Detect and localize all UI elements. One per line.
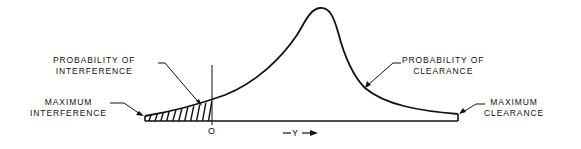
label-line: INTERFERENCE (53, 66, 135, 77)
label-probability-of-clearance: PROBABILITY OF CLEARANCE (402, 55, 484, 77)
label-line: CLEARANCE (402, 66, 484, 77)
leader-maximum-clearance (463, 104, 485, 112)
label-probability-of-interference: PROBABILITY OF INTERFERENCE (53, 55, 135, 77)
label-line: PROBABILITY OF (53, 55, 135, 66)
arrowhead-icon (459, 108, 466, 114)
origin-label: O (208, 126, 216, 137)
label-line: CLEARANCE (484, 108, 544, 119)
label-line: MAXIMUM (30, 97, 107, 108)
arrowhead-icon (365, 81, 371, 88)
label-line: MAXIMUM (484, 97, 544, 108)
diagram-canvas: PROBABILITY OF INTERFERENCE MAXIMUM INTE… (0, 0, 581, 149)
leader-probability-of-interference (158, 63, 200, 104)
leader-maximum-interference (110, 103, 140, 114)
leader-probability-of-clearance (368, 63, 401, 85)
label-line: PROBABILITY OF (402, 55, 484, 66)
arrow-right-icon (310, 130, 318, 136)
label-maximum-interference: MAXIMUM INTERFERENCE (30, 97, 107, 119)
label-maximum-clearance: MAXIMUM CLEARANCE (484, 97, 544, 119)
y-variable-label: Y (292, 128, 299, 139)
label-line: INTERFERENCE (30, 108, 107, 119)
